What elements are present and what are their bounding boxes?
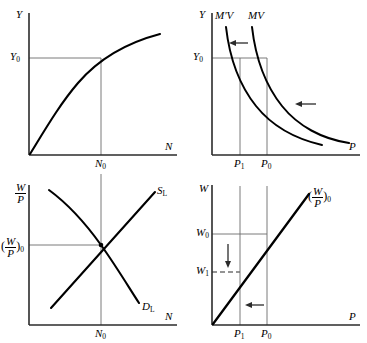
marker-y0-tl: Y0 [10,51,20,63]
curve-label-mv: MV [248,10,264,21]
marker-n0-tl: N0 [95,158,106,170]
curve-label-demand-labour: DL [142,301,155,313]
diagram-canvas [0,0,367,343]
marker-p0-br: P0 [261,328,271,340]
marker-n0-bl: N0 [95,328,106,340]
marker-p0-tr: P0 [261,158,271,170]
marker-w0-br: W0 [196,227,209,239]
marker-p1-br: P1 [234,328,244,340]
axis-label-n-tl: N [165,141,172,152]
marker-w1-br: W1 [196,265,209,277]
axis-label-n-bl: N [165,311,172,322]
marker-p1-tr: P1 [234,158,244,170]
shift-arrow-upper [229,40,248,46]
wage-fall-arrow [225,244,231,268]
axis-label-p-br: P [349,311,356,322]
axis-label-y-tl: Y [16,9,22,20]
marker-wp0-bl: (WP)0 [1,236,24,260]
axis-label-w-br: W [199,183,208,194]
axis-label-y-tr: Y [199,9,205,20]
panel-real-wage-line [212,185,360,325]
equilibrium-point [99,243,104,248]
curve-label-mprime-v: M′V [215,10,233,21]
axis-label-p-tr: P [349,141,356,152]
labour-supply-curve [51,192,155,308]
panel-labour-market [29,174,177,325]
panel-quantity-equation [212,13,360,155]
marker-y0-tr: Y0 [193,51,203,63]
curve-label-real-wage-ray: (WP)0 [308,186,331,210]
curve-label-supply-labour: SL [157,185,167,197]
production-function-curve [30,34,160,154]
four-quadrant-diagram: Y N Y0 N0 Y P M′V MV Y0 P1 P0 WP N (WP)0… [0,0,367,343]
panel-production-function [29,13,177,155]
shift-arrow-lower [295,101,316,107]
labour-demand-curve [49,190,139,303]
axis-label-wp-bl: WP [15,182,26,206]
price-fall-arrow [245,302,264,308]
